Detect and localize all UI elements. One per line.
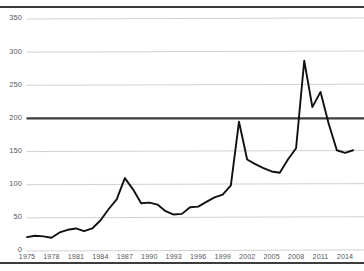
y-tick-label-150: 150 [0,147,22,155]
x-tick-label-1990: 1990 [136,253,162,261]
x-tick-label-1993: 1993 [161,253,187,261]
chart-container: 050100150200250300350 197519781981198419… [0,0,364,271]
gridline-250 [27,84,364,85]
gridline-300 [27,51,364,52]
x-tick-label-2002: 2002 [234,253,260,261]
x-tick-label-2005: 2005 [259,253,285,261]
x-tick-label-2008: 2008 [283,253,309,261]
x-tick-label-1978: 1978 [38,253,64,261]
gridline-100 [27,184,364,185]
line-chart-plot [0,0,364,271]
gridline-350 [27,18,364,19]
x-tick-label-1975: 1975 [14,253,40,261]
gridline-150 [27,150,364,151]
series-group [27,61,353,238]
gridline-50 [27,217,364,218]
x-tick-label-2011: 2011 [308,253,334,261]
data-line-series-1 [27,61,353,238]
gridline-0 [27,250,364,251]
gridlines-group [27,18,364,251]
x-tick-label-2014: 2014 [332,253,358,261]
x-tick-label-1987: 1987 [112,253,138,261]
x-tick-label-1996: 1996 [185,253,211,261]
y-tick-label-100: 100 [0,180,22,188]
y-tick-label-250: 250 [0,81,22,89]
x-tick-label-1999: 1999 [210,253,236,261]
x-tick-label-1981: 1981 [63,253,89,261]
y-tick-label-200: 200 [0,114,22,122]
x-tick-label-1984: 1984 [87,253,113,261]
y-tick-label-300: 300 [0,48,22,56]
y-tick-label-50: 50 [0,213,22,221]
y-tick-label-350: 350 [0,14,22,22]
